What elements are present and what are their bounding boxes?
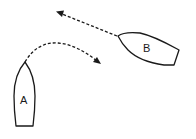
boat-b-arrowhead-icon (56, 11, 64, 18)
boat-b-label: B (143, 42, 150, 54)
boat-a-path (25, 43, 97, 62)
boat-a-arrowhead-icon (93, 57, 101, 64)
boat-b-path (62, 14, 117, 36)
boat-diagram: A B (0, 0, 196, 139)
boat-a-label: A (20, 94, 28, 106)
